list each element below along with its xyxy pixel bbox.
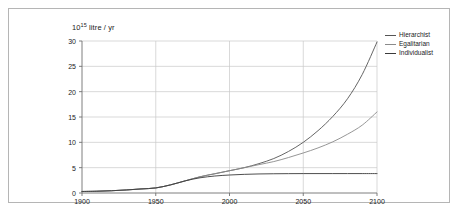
legend-line-icon (385, 53, 396, 54)
legend-item: Hierarchist (385, 31, 455, 39)
legend-line-icon (385, 44, 396, 45)
y-tick-label: 30 (60, 38, 76, 45)
tick-marks (79, 41, 377, 196)
y-tick-label: 10 (60, 139, 76, 146)
y-axis-unit-text: litre / yr (89, 23, 115, 32)
x-tick-label: 1950 (141, 198, 171, 205)
y-tick-label: 15 (60, 114, 76, 121)
x-tick-label: 1900 (67, 198, 97, 205)
chart-legend: HierarchistEgalitarianIndividualist (385, 31, 455, 58)
y-axis-unit-label: 1015 litre / yr (72, 23, 115, 32)
legend-item: Egalitarian (385, 40, 455, 48)
y-tick-label: 5 (60, 164, 76, 171)
chart-figure: 1015 litre / yr 051015202530 19001950200… (0, 0, 459, 217)
legend-line-icon (385, 35, 396, 36)
figure-frame: 1015 litre / yr 051015202530 19001950200… (8, 8, 450, 203)
legend-label: Hierarchist (399, 31, 430, 39)
x-tick-label: 2100 (362, 198, 392, 205)
x-tick-label: 2000 (215, 198, 245, 205)
plot-area: 051015202530 19001950200020502100 (82, 41, 377, 193)
y-axis-unit-mantissa: 10 (72, 23, 81, 32)
legend-label: Egalitarian (399, 40, 430, 48)
legend-label: Individualist (399, 49, 433, 57)
y-tick-label: 25 (60, 63, 76, 70)
y-axis-unit-exponent: 15 (81, 22, 87, 28)
y-tick-label: 0 (60, 190, 76, 197)
legend-item: Individualist (385, 49, 455, 57)
y-tick-label: 20 (60, 88, 76, 95)
x-tick-label: 2050 (288, 198, 318, 205)
chart-canvas (82, 41, 377, 193)
